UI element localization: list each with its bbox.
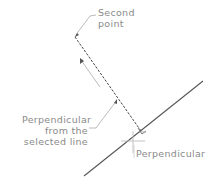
- second-point-label: Second point: [98, 7, 135, 29]
- perpendicular-from-leader: [89, 99, 117, 128]
- perp-from-label-line1: Perpendicular: [22, 114, 88, 125]
- perp-from-label-line3: selected line: [22, 136, 88, 147]
- second-point-leader: [75, 15, 96, 37]
- perpendicular-from-label: Perpendicular from the selected line: [22, 114, 88, 147]
- perp-from-label-line2: from the: [22, 125, 88, 136]
- second-point-label-line1: Second: [98, 7, 135, 18]
- selected-line: [84, 81, 203, 176]
- direction-arrow-icon: [80, 58, 100, 87]
- perpendicular-snap-label: Perpendicular: [136, 148, 205, 159]
- second-point-label-line2: point: [98, 18, 135, 29]
